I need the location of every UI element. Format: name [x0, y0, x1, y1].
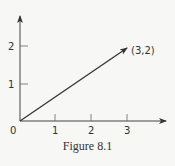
origin-label: 0	[10, 125, 16, 136]
point-label: (3,2)	[131, 45, 155, 56]
x-tick-label-2: 2	[88, 125, 94, 136]
y-tick-label-2: 2	[8, 41, 14, 52]
y-tick-label-1: 1	[8, 79, 14, 90]
figure-caption: Figure 8.1	[0, 139, 175, 154]
x-tick-label-3: 3	[124, 125, 130, 136]
vector-arrow	[20, 48, 127, 121]
x-tick-label-1: 1	[52, 125, 58, 136]
